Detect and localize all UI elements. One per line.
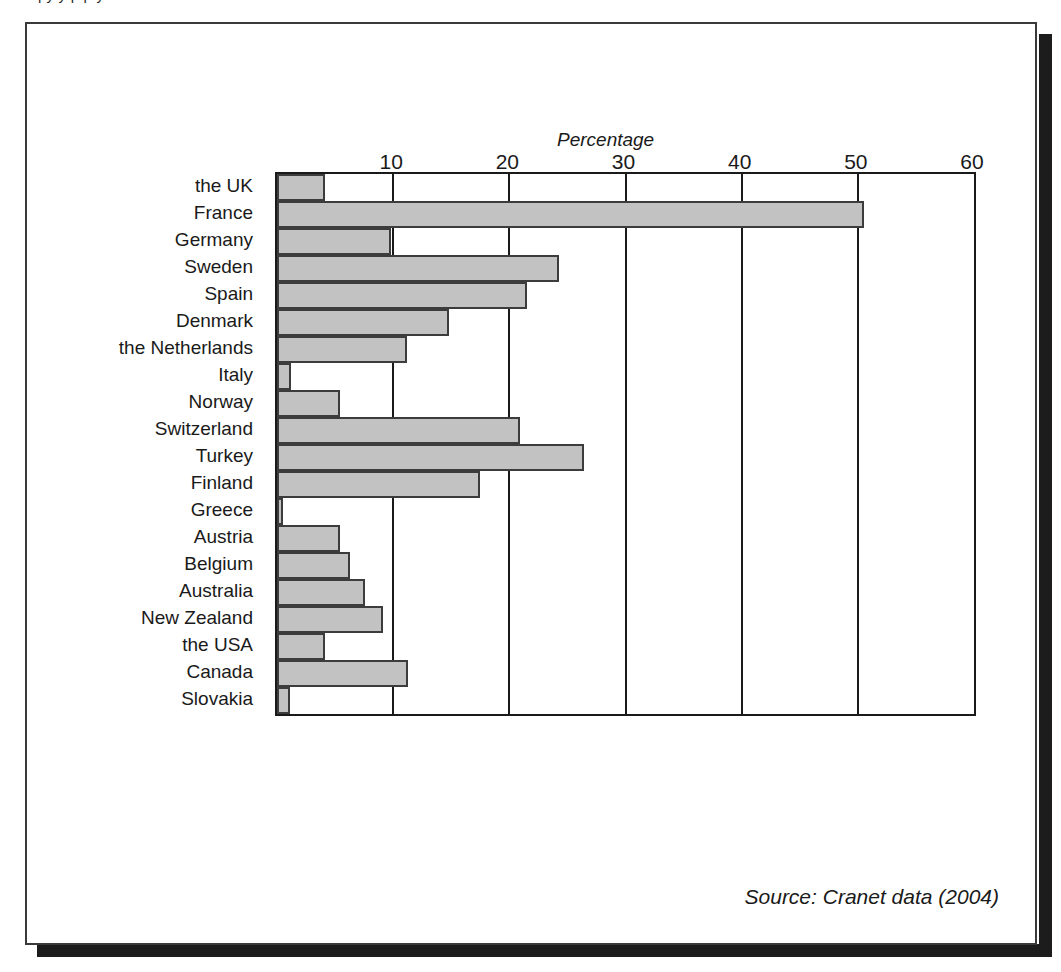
bar	[277, 660, 408, 687]
bar-chart: Percentage 102030405060 the UKFranceGerm…	[27, 24, 1039, 947]
x-tick-label: 30	[612, 150, 635, 174]
bar	[277, 174, 325, 201]
y-category-label: New Zealand	[27, 607, 267, 629]
bar-row	[277, 174, 974, 201]
bar-row	[277, 633, 974, 660]
figure-shadow-right	[1039, 34, 1052, 957]
x-tick-label: 40	[728, 150, 751, 174]
bar	[277, 228, 391, 255]
bar	[277, 201, 864, 228]
y-category-label: Switzerland	[27, 418, 267, 440]
y-category-label: Italy	[27, 364, 267, 386]
y-category-label: Norway	[27, 391, 267, 413]
bar-row	[277, 552, 974, 579]
bar	[277, 390, 340, 417]
x-tick-label: 20	[496, 150, 519, 174]
figure-frame: Percentage 102030405060 the UKFranceGerm…	[25, 22, 1037, 945]
y-category-label: the USA	[27, 634, 267, 656]
bar	[277, 336, 407, 363]
bars-group	[277, 174, 974, 714]
y-category-label: Sweden	[27, 256, 267, 278]
bar-row	[277, 579, 974, 606]
bar-row	[277, 417, 974, 444]
top-caption-strip: py y p p y	[0, 0, 1061, 16]
bar	[277, 282, 527, 309]
y-category-label: Canada	[27, 661, 267, 683]
bar-row	[277, 390, 974, 417]
source-note: Source: Cranet data (2004)	[745, 885, 999, 909]
y-category-label: Belgium	[27, 553, 267, 575]
y-category-label: Greece	[27, 499, 267, 521]
y-category-label: the UK	[27, 175, 267, 197]
bar-row	[277, 687, 974, 714]
bar	[277, 552, 350, 579]
bar	[277, 309, 449, 336]
y-category-label: Australia	[27, 580, 267, 602]
bar-row	[277, 660, 974, 687]
bar-row	[277, 255, 974, 282]
top-caption-text: py y p p y	[38, 0, 104, 3]
bar-row	[277, 282, 974, 309]
bar	[277, 606, 383, 633]
bar	[277, 525, 340, 552]
bar	[277, 471, 480, 498]
bar-row	[277, 525, 974, 552]
bar	[277, 633, 325, 660]
bar-row	[277, 336, 974, 363]
y-category-label: Austria	[27, 526, 267, 548]
bar-row	[277, 363, 974, 390]
plot-area	[275, 172, 976, 716]
y-category-label: Slovakia	[27, 688, 267, 710]
y-category-label: the Netherlands	[27, 337, 267, 359]
bar	[277, 444, 584, 471]
y-category-label: Turkey	[27, 445, 267, 467]
y-axis-category-labels: the UKFranceGermanySwedenSpainDenmarkthe…	[27, 172, 267, 712]
x-axis-title: Percentage	[557, 129, 654, 151]
bar-row	[277, 201, 974, 228]
x-tick-label: 60	[960, 150, 983, 174]
bar	[277, 255, 559, 282]
x-tick-label: 10	[379, 150, 402, 174]
bar	[277, 417, 520, 444]
bar-row	[277, 309, 974, 336]
bar-row	[277, 498, 974, 525]
y-category-label: Spain	[27, 283, 267, 305]
bar	[277, 687, 290, 714]
y-category-label: France	[27, 202, 267, 224]
bar	[277, 498, 283, 525]
bar-row	[277, 471, 974, 498]
bar	[277, 363, 291, 390]
y-category-label: Germany	[27, 229, 267, 251]
bar-row	[277, 228, 974, 255]
y-category-label: Denmark	[27, 310, 267, 332]
y-category-label: Finland	[27, 472, 267, 494]
bar-row	[277, 606, 974, 633]
x-tick-label: 50	[844, 150, 867, 174]
bar-row	[277, 444, 974, 471]
bar	[277, 579, 365, 606]
